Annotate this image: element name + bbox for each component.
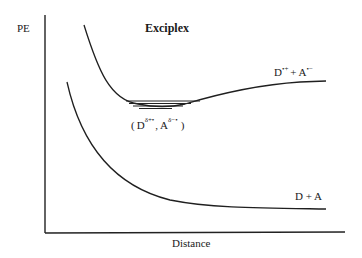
svg-text:D•++A•−: D•++A•− (274, 65, 313, 78)
vibrational-levels (126, 101, 200, 109)
y-axis-label: PE (17, 22, 30, 34)
svg-text:(Dδ+•,Aδ−•): (Dδ+•,Aδ−•) (131, 116, 185, 132)
exciplex-minimum-label: (Dδ+•,Aδ−•) (131, 116, 185, 132)
potential-energy-diagram: PE Distance Exciplex (Dδ+•,Aδ−•) D•++A•− (0, 0, 362, 258)
ground-state-label: D + A (295, 190, 322, 202)
x-axis (45, 232, 345, 233)
x-axis-label: Distance (172, 237, 211, 249)
diagram-title: Exciplex (145, 21, 189, 35)
radical-ion-pair-label: D•++A•− (274, 65, 313, 78)
